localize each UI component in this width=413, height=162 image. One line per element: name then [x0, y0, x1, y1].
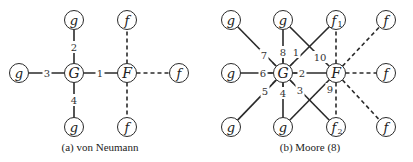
node-label: g [227, 13, 235, 28]
node-label: g [227, 120, 235, 135]
node-f1: f1 [327, 11, 346, 30]
node-g_top: g [65, 11, 84, 30]
node-f2: f2 [327, 118, 346, 137]
node-label: g [15, 66, 23, 81]
node-f_tr: f [377, 11, 396, 30]
node-f_top: f [118, 11, 137, 30]
edge-label: 9 [327, 84, 333, 95]
edge-label: 2 [71, 42, 77, 53]
edge-label: 5 [262, 86, 268, 97]
node-label: G [68, 65, 79, 81]
edge-label: 8 [280, 47, 286, 58]
node-F: F [118, 64, 137, 83]
edge-label: 7 [261, 50, 267, 61]
node-f_mr: f [377, 64, 396, 83]
node-g_bl: g [222, 118, 241, 137]
edge-label: 3 [297, 85, 303, 96]
node-g_left: g [10, 64, 29, 83]
node-label: F [330, 65, 342, 81]
node-g_bm: g [274, 118, 293, 137]
edge-label: 6 [260, 68, 266, 79]
node-subscript: 2 [337, 127, 342, 136]
edge-G-g_bl [238, 80, 277, 120]
node-g_bottom: g [65, 118, 84, 137]
edge-F-f_br [342, 80, 379, 120]
node-F: F [327, 64, 346, 83]
node-subscript: 1 [337, 20, 342, 29]
edge-G-g_tl [238, 27, 277, 66]
edge-F-f_tr [343, 27, 380, 66]
node-g_ml: g [222, 64, 241, 83]
nodes-layer: ggGgFfffggf1fgGFfggf2f [10, 11, 396, 137]
node-label: g [70, 120, 78, 135]
edge-label: 1 [97, 68, 103, 79]
node-f_br: f [377, 118, 396, 137]
neighborhood-diagram: ggGgFfffggf1fgGFfggf2f 123412345678910 [0, 0, 413, 162]
edge-label: 10 [314, 52, 327, 63]
edge-label: 3 [44, 68, 50, 79]
node-label: g [70, 13, 78, 28]
node-label: G [277, 65, 288, 81]
node-f_right: f [170, 64, 189, 83]
node-G: G [274, 64, 293, 83]
edge-label: 4 [280, 88, 286, 99]
edge-label: 2 [299, 68, 305, 79]
node-label: g [279, 120, 287, 135]
node-label: g [227, 66, 235, 81]
node-g_tl: g [222, 11, 241, 30]
node-f_bottom: f [118, 118, 137, 137]
node-label: g [279, 13, 287, 28]
node-label: F [121, 65, 133, 81]
edge-label: 4 [71, 95, 77, 106]
node-g_tm: g [274, 11, 293, 30]
caption-von-neumann: (a) von Neumann [62, 141, 139, 153]
edge-label: 1 [293, 47, 299, 58]
caption-moore: (b) Moore (8) [280, 141, 340, 153]
node-G: G [65, 64, 84, 83]
